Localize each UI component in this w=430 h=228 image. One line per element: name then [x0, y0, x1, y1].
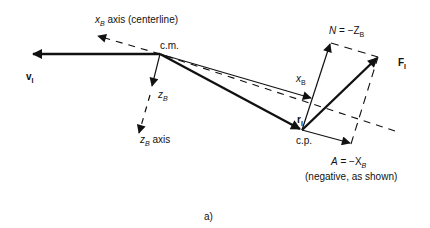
resultant-force-label: FI	[398, 57, 406, 70]
cm-to-xb-line	[160, 54, 311, 98]
position-vector-label: rI	[297, 114, 303, 127]
xb-axis-dashed-line	[160, 54, 395, 131]
xb-label: xB	[295, 73, 306, 86]
xb-axis-arrow	[98, 36, 160, 54]
velocity-label: vI	[26, 71, 34, 84]
cm-label: c.m.	[160, 40, 179, 51]
zb-label: zB	[157, 89, 168, 102]
aerodynamic-force-diagram: xB axis (centerline) c.m. vI zB zB axis …	[0, 0, 430, 228]
zb-axis-dashed-line	[139, 95, 150, 133]
normal-force-label: N = −ZB	[329, 25, 365, 38]
panel-label: a)	[204, 211, 213, 222]
cp-label: c.p.	[296, 135, 312, 146]
construction-line-n-to-f	[331, 43, 378, 57]
axial-force-label: A = −XB	[330, 156, 367, 169]
cm-to-cp-vector	[160, 54, 300, 129]
xb-axis-label: xB axis (centerline)	[94, 14, 178, 27]
zb-vector	[152, 54, 160, 86]
zb-axis-label: zB axis	[139, 134, 170, 147]
axial-note: (negative, as shown)	[305, 171, 397, 182]
